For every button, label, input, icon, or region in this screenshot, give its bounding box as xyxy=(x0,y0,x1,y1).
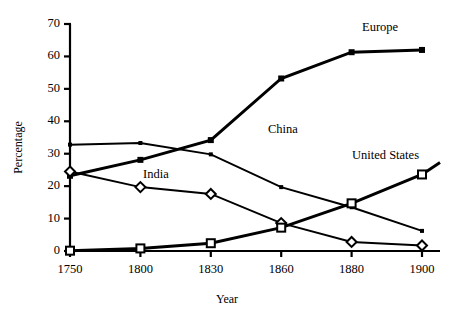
x-tick-1830: 1830 xyxy=(186,262,236,277)
y-axis-title: Percentage xyxy=(11,113,26,183)
y-tick-60: 60 xyxy=(34,48,60,63)
y-tick-40: 40 xyxy=(34,113,60,128)
y-tick-70: 70 xyxy=(34,16,60,31)
x-axis-title: Year xyxy=(0,292,454,307)
x-tick-1880: 1880 xyxy=(327,262,377,277)
series-india xyxy=(65,167,427,251)
y-tick-50: 50 xyxy=(34,81,60,96)
series-label-united-states: United States xyxy=(352,148,419,163)
y-tick-0: 0 xyxy=(34,243,60,258)
x-tick-1900: 1900 xyxy=(397,262,447,277)
y-tick-10: 10 xyxy=(34,211,60,226)
y-tick-30: 30 xyxy=(34,146,60,161)
y-tick-20: 20 xyxy=(34,178,60,193)
series-label-europe: Europe xyxy=(362,20,398,35)
series-label-china: China xyxy=(268,122,298,137)
series-united-states xyxy=(66,162,440,254)
x-tick-1750: 1750 xyxy=(45,262,95,277)
axes xyxy=(64,24,440,257)
x-tick-1860: 1860 xyxy=(256,262,306,277)
series-label-india: India xyxy=(143,167,169,182)
line-chart: Percentage Year 010203040506070 17501800… xyxy=(0,0,454,321)
x-tick-1800: 1800 xyxy=(115,262,165,277)
